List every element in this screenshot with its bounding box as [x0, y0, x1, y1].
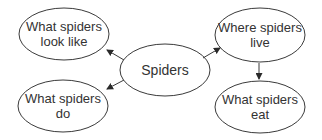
node-eat-label: What spiders eat — [215, 81, 305, 133]
node-live-label: Where spiders live — [215, 8, 305, 62]
node-do-label: What spiders do — [18, 80, 108, 132]
node-look-label: What spiders look like — [19, 8, 109, 60]
node-center-label: Spiders — [120, 44, 210, 96]
spiders-concept-map: What spiders look like Where spiders liv… — [0, 0, 322, 140]
